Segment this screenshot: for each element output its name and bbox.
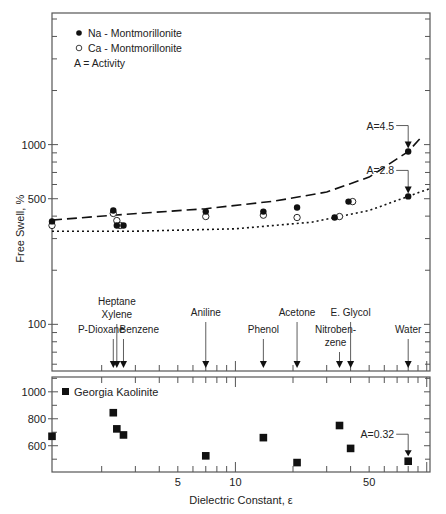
- activity-annotation: A=0.32: [361, 428, 395, 440]
- legend-label: A = Activity: [74, 57, 126, 69]
- y-tick-label: 600: [28, 440, 46, 452]
- solvent-label: Acetone: [279, 307, 316, 318]
- solvent-label: Nitroben-: [315, 324, 356, 335]
- arrow-down-icon: [405, 450, 412, 456]
- arrow-down-icon: [336, 361, 343, 368]
- georgia-kaolinite-point: [347, 445, 355, 453]
- legend-label: Na - Montmorillonite: [88, 27, 182, 39]
- legend-filled-square-icon: [62, 388, 69, 395]
- bottom-panel: 600800100051050Dielectric Constant, εGeo…: [22, 377, 430, 506]
- arrow-down-icon: [405, 142, 412, 149]
- x-tick-label: 5: [175, 476, 181, 488]
- georgia-kaolinite-point: [336, 422, 344, 430]
- top-panel: 1005001000Free Swell, %Na - Montmorillon…: [14, 13, 430, 371]
- ca-montmorillonite-point: [294, 214, 300, 220]
- na-montmorillonite-point: [405, 148, 411, 154]
- legend-open-circle-icon: [76, 45, 82, 51]
- y-axis-label: Free Swell, %: [14, 195, 26, 263]
- legend-label: Georgia Kaolinite: [74, 386, 158, 398]
- georgia-kaolinite-point: [113, 425, 121, 433]
- activity-annotation: A=4.5: [366, 120, 394, 132]
- x-tick-label: 50: [363, 476, 375, 488]
- na-montmorillonite-point: [405, 193, 411, 199]
- legend-label: Ca - Montmorillonite: [88, 42, 182, 54]
- solvent-label: Heptane: [98, 296, 136, 307]
- legend-filled-circle-icon: [76, 30, 82, 36]
- na-montmorillonite-point: [120, 222, 126, 228]
- arrow-down-icon: [405, 361, 412, 368]
- y-tick-label: 500: [28, 193, 46, 205]
- na-montmorillonite-point: [331, 214, 337, 220]
- georgia-kaolinite-point: [109, 409, 117, 417]
- georgia-kaolinite-point: [293, 459, 301, 467]
- x-axis-label: Dielectric Constant, ε: [189, 494, 292, 506]
- na-montmorillonite-point: [114, 222, 120, 228]
- y-tick-label: 1000: [22, 139, 46, 151]
- solvent-label: Phenol: [248, 324, 279, 335]
- georgia-kaolinite-point: [260, 434, 268, 442]
- georgia-kaolinite-point: [120, 431, 128, 439]
- free-swell-chart: 1005001000Free Swell, %Na - Montmorillon…: [0, 0, 446, 514]
- activity-annotation: A=2.8: [366, 164, 394, 176]
- arrow-down-icon: [260, 361, 267, 368]
- y-tick-label: 100: [28, 318, 46, 330]
- na-montmorillonite-point: [260, 208, 266, 214]
- y-tick-label: 1000: [22, 386, 46, 398]
- na-montmorillonite-point: [203, 208, 209, 214]
- arrow-down-icon: [347, 361, 354, 368]
- solvent-label: zene: [325, 337, 347, 348]
- dashed-trend-line: [52, 136, 423, 220]
- arrow-down-icon: [120, 361, 127, 368]
- solvent-label: Xylene: [102, 309, 133, 320]
- x-tick-label: 10: [229, 476, 241, 488]
- georgia-kaolinite-point: [202, 452, 210, 460]
- na-montmorillonite-point: [49, 218, 55, 224]
- na-montmorillonite-point: [110, 207, 116, 213]
- georgia-kaolinite-point: [404, 457, 412, 465]
- solvent-label: Benzene: [119, 324, 159, 335]
- solvent-label: P-Dioxane: [78, 324, 125, 335]
- arrow-down-icon: [294, 361, 301, 368]
- arrow-down-icon: [202, 361, 209, 368]
- solvent-label: E. Glycol: [331, 307, 371, 318]
- y-tick-label: 800: [28, 413, 46, 425]
- solvent-label: Aniline: [191, 307, 221, 318]
- dotted-trend-line: [52, 189, 430, 232]
- georgia-kaolinite-point: [48, 432, 56, 440]
- na-montmorillonite-point: [294, 204, 300, 210]
- solvent-label: Water: [395, 324, 422, 335]
- arrow-down-icon: [405, 186, 412, 193]
- na-montmorillonite-point: [345, 198, 351, 204]
